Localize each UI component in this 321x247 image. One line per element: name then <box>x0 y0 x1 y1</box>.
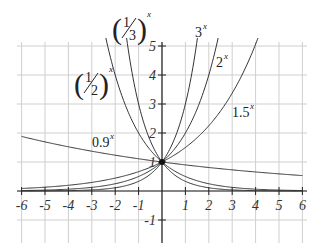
y-tick-label: -1 <box>144 213 156 228</box>
y-tick-label: 4 <box>149 68 156 83</box>
svg-text:3: 3 <box>129 28 136 43</box>
y-tick-label: 5 <box>149 39 156 54</box>
svg-text:x: x <box>202 21 207 31</box>
svg-text:x: x <box>109 131 114 141</box>
x-tick-label: 4 <box>252 198 259 213</box>
x-tick-label: -6 <box>16 198 28 213</box>
x-tick-label: -1 <box>133 198 145 213</box>
axes <box>17 42 307 243</box>
svg-text:2: 2 <box>216 55 223 70</box>
svg-text:1.5: 1.5 <box>232 105 250 120</box>
x-tick-label: -5 <box>39 198 51 213</box>
common-point-marker <box>159 159 165 165</box>
svg-text:x: x <box>108 64 113 74</box>
label-one-third-power-x: ( 1 3 ) x <box>112 9 151 46</box>
svg-text:3: 3 <box>195 25 202 40</box>
label-two-power-x: 2 x <box>216 51 228 70</box>
exponential-functions-chart: -6-5-4-3-2-112345654321-1 ( 1 3 ) x ( 1 … <box>0 0 321 247</box>
svg-text:x: x <box>223 51 228 61</box>
x-tick-label: -4 <box>63 198 75 213</box>
label-three-power-x: 3 x <box>195 21 207 40</box>
label-zero-point-nine-power-x: 0.9 x <box>92 131 114 150</box>
svg-text:): ) <box>99 67 109 101</box>
curve-12x <box>106 38 303 191</box>
svg-text:): ) <box>137 12 147 46</box>
chart-canvas: -6-5-4-3-2-112345654321-1 ( 1 3 ) x ( 1 … <box>0 0 321 247</box>
svg-text:x: x <box>146 9 151 19</box>
x-tick-label: 5 <box>276 198 283 213</box>
x-tick-label: 2 <box>205 198 212 213</box>
curve-2x <box>22 38 219 191</box>
svg-text:(: ( <box>74 67 84 101</box>
y-tick-label: 3 <box>148 97 156 112</box>
svg-text:0.9: 0.9 <box>92 135 110 150</box>
x-tick-label: -3 <box>86 198 98 213</box>
y-tick-label: 1 <box>149 155 156 170</box>
x-tick-label: 3 <box>228 198 236 213</box>
curve-3x <box>22 37 198 191</box>
y-tick-label: 2 <box>149 126 156 141</box>
x-tick-label: 1 <box>182 198 189 213</box>
label-one-half-power-x: ( 1 2 ) x <box>74 64 113 101</box>
svg-text:x: x <box>249 101 254 111</box>
svg-text:2: 2 <box>91 83 98 98</box>
svg-text:(: ( <box>112 12 122 46</box>
x-tick-label: 6 <box>299 198 306 213</box>
x-tick-label: -2 <box>109 198 121 213</box>
